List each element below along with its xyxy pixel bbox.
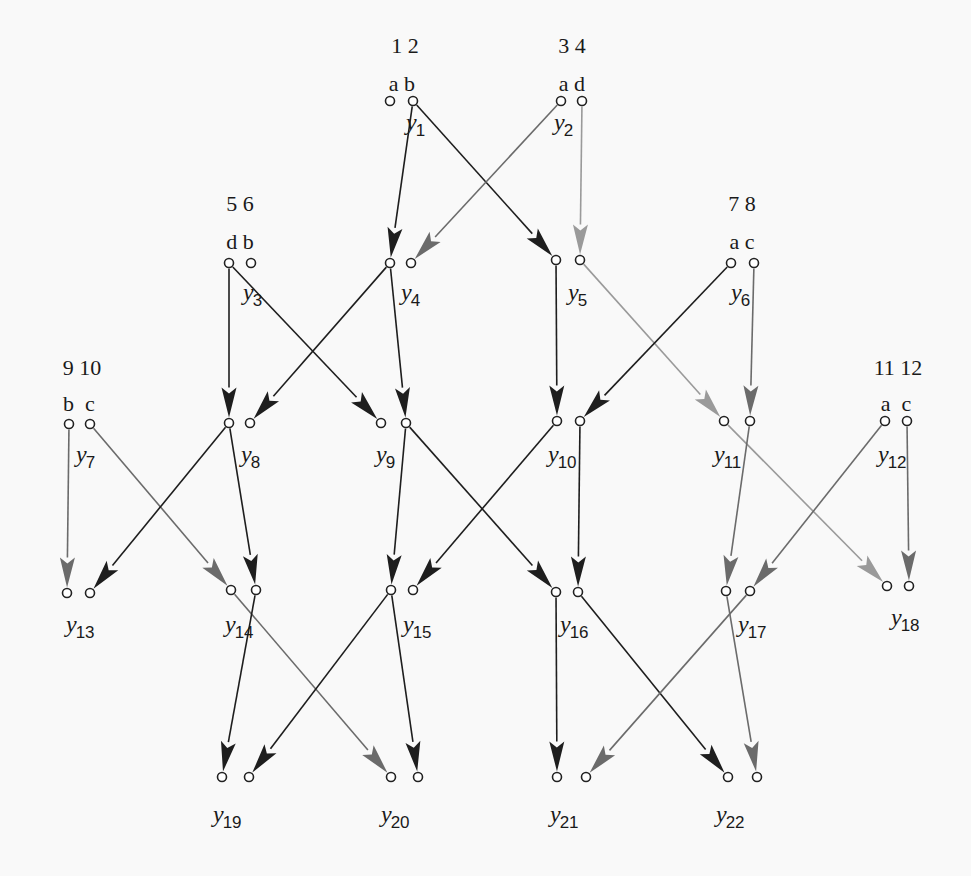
node-y8-left xyxy=(225,419,234,428)
unit-y12: y12 xyxy=(876,417,912,473)
node-y18-left xyxy=(883,582,892,591)
unit-y1: y1 xyxy=(386,97,426,141)
node-y10-right xyxy=(576,417,585,426)
node-y18-right xyxy=(905,582,914,591)
unit-label-y12: y12 xyxy=(876,441,907,472)
arrowhead-icon xyxy=(571,556,586,586)
unit-label-y6: y6 xyxy=(729,279,750,310)
unit-y17: y17 xyxy=(722,587,767,643)
edge-y10-right-to-y16-right xyxy=(571,426,586,586)
unit-y8: y8 xyxy=(225,419,261,473)
node-y16-right xyxy=(574,588,583,597)
input-numbers: 5 6 xyxy=(226,191,254,216)
unit-y13: y13 xyxy=(63,589,95,643)
edge-y3-left-to-y8-left xyxy=(222,269,237,418)
input-numbers: 11 12 xyxy=(874,355,923,380)
input-letters: a c xyxy=(729,229,754,254)
node-y9-left xyxy=(377,419,386,428)
unit-label-y10: y10 xyxy=(546,441,577,472)
edge-y2-left-to-y4-right xyxy=(415,105,558,259)
edge-y11-right-to-y17-left xyxy=(724,426,750,585)
unit-y19: y19 xyxy=(211,773,254,833)
arrowhead-icon xyxy=(395,387,410,418)
input-letters: a c xyxy=(881,391,912,416)
arrowhead-icon xyxy=(743,385,758,415)
input-letters: d b xyxy=(226,229,254,254)
node-y14-left xyxy=(227,586,236,595)
arrowhead-icon xyxy=(549,385,564,415)
arrowhead-icon xyxy=(901,550,916,580)
edge-y5-left-to-y10-left xyxy=(549,265,564,415)
arrowhead-icon xyxy=(93,561,118,589)
unit-label-y19: y19 xyxy=(211,801,242,832)
edge-y7-left-to-y13-left xyxy=(60,429,75,587)
network-diagram: y1y2y3y4y5y6y7y8y9y10y11y12y13y14y15y16y… xyxy=(0,0,971,876)
node-y4-right xyxy=(407,259,416,268)
node-y11-left xyxy=(720,417,729,426)
unit-label-y18: y18 xyxy=(889,604,920,635)
edge-y12-right-to-y18-right xyxy=(901,426,916,580)
input-letters: a d xyxy=(559,71,585,96)
arrowhead-icon xyxy=(700,745,725,773)
node-y8-right xyxy=(246,419,255,428)
unit-label-y15: y15 xyxy=(401,611,432,642)
input-numbers: 1 2 xyxy=(391,33,419,58)
node-y2-right xyxy=(578,97,587,106)
edge-y1-right-to-y5-left xyxy=(417,105,553,256)
edge-y17-right-to-y21-right xyxy=(590,595,747,773)
node-y21-right xyxy=(582,773,591,782)
input-numbers: 7 8 xyxy=(728,191,756,216)
arrowhead-icon xyxy=(60,557,75,587)
unit-label-y2: y2 xyxy=(552,109,573,140)
edge-y9-right-to-y15-left xyxy=(387,428,406,584)
arrowhead-icon xyxy=(202,558,227,586)
arrowhead-icon xyxy=(243,554,258,585)
node-y12-right xyxy=(903,417,912,426)
input-label-in78: 7 8a c xyxy=(728,191,756,254)
node-y7-right xyxy=(86,420,95,429)
node-y5-right xyxy=(576,256,585,265)
node-y15-right xyxy=(409,586,418,595)
unit-y21: y21 xyxy=(548,773,591,833)
node-y19-left xyxy=(218,773,227,782)
unit-y16: y16 xyxy=(552,588,589,643)
node-y12-left xyxy=(881,417,890,426)
unit-label-y13: y13 xyxy=(64,611,95,642)
node-y20-right xyxy=(414,773,423,782)
unit-y22: y22 xyxy=(714,773,762,833)
node-y1-right xyxy=(409,97,418,106)
unit-label-y3: y3 xyxy=(241,279,262,310)
edge-y16-right-to-y22-left xyxy=(581,596,724,772)
node-y15-left xyxy=(387,586,396,595)
arrowhead-icon xyxy=(222,388,237,418)
node-y2-left xyxy=(557,97,566,106)
unit-label-y5: y5 xyxy=(566,279,587,310)
unit-label-y16: y16 xyxy=(558,611,589,642)
unit-label-y9: y9 xyxy=(374,441,395,472)
input-label-in12: 1 2a b xyxy=(389,33,419,96)
node-y3-left xyxy=(225,259,234,268)
input-numbers: 3 4 xyxy=(558,33,586,58)
node-y19-right xyxy=(245,773,254,782)
arrowhead-icon xyxy=(388,227,403,258)
edge-y14-left-to-y20-left xyxy=(235,594,388,773)
unit-label-y7: y7 xyxy=(74,441,95,472)
unit-y14: y14 xyxy=(223,586,261,643)
arrowhead-icon xyxy=(252,744,276,772)
node-y17-left xyxy=(722,587,731,596)
input-letters: a b xyxy=(389,71,415,96)
labels-layer: 1 2a b3 4a d5 6d b7 8a c9 10b c11 12a c xyxy=(63,33,923,416)
input-numbers: 9 10 xyxy=(63,355,102,380)
unit-label-y1: y1 xyxy=(404,109,425,140)
node-y22-right xyxy=(753,773,762,782)
arrowhead-icon xyxy=(744,741,759,772)
node-y7-left xyxy=(65,420,74,429)
node-y10-left xyxy=(553,417,562,426)
unit-label-y17: y17 xyxy=(736,611,767,642)
unit-label-y22: y22 xyxy=(714,801,745,832)
node-y14-right xyxy=(252,586,261,595)
arrowhead-icon xyxy=(724,555,739,586)
edge-y4-left-to-y8-right xyxy=(254,267,387,419)
input-label-in56: 5 6d b xyxy=(226,191,254,254)
unit-y18: y18 xyxy=(883,582,920,636)
